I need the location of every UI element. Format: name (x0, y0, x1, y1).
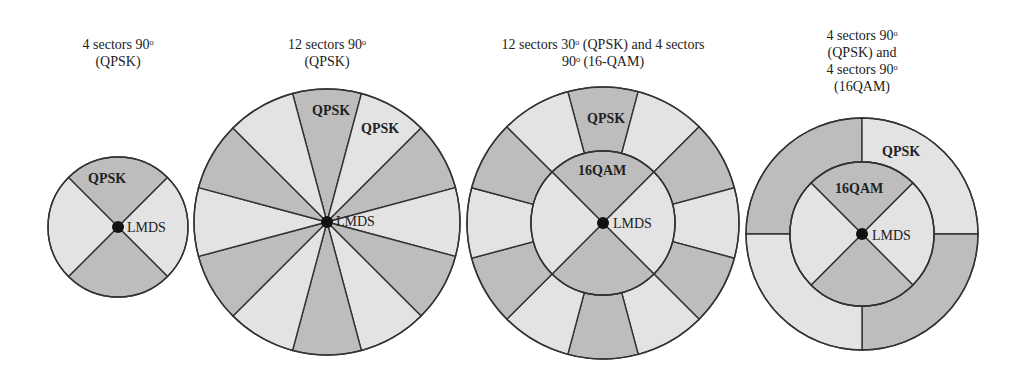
diagram-2-lmds-label: LMDS (336, 214, 375, 229)
diagram-1-qpsk-label: QPSK (88, 171, 126, 186)
diagram-2-qpsk-label-2: QPSK (361, 121, 399, 136)
diagram-4-lmds-label: LMDS (872, 228, 911, 243)
base-station-icon (112, 221, 124, 233)
base-station-icon (321, 216, 333, 228)
diagram-3-qpsk-label: QPSK (587, 111, 625, 126)
diagram-3-lmds-label: LMDS (613, 216, 652, 231)
diagram-12-qpsk-4-16qam (467, 87, 739, 359)
diagram-12-sectors-qpsk (194, 89, 460, 355)
sector-diagrams: QPSKLMDSQPSKQPSKLMDSQPSK16QAMLMDSQPSK16Q… (0, 0, 1018, 372)
base-station-icon (856, 228, 868, 240)
diagram-4-qpsk-label: QPSK (882, 144, 920, 159)
base-station-icon (597, 217, 609, 229)
diagram-1-lmds-label: LMDS (127, 220, 166, 235)
diagram-3-16qam-label: 16QAM (578, 163, 626, 178)
diagram-4-16qam-label: 16QAM (835, 181, 883, 196)
diagram-2-qpsk-label: QPSK (312, 103, 350, 118)
diagram-4-qpsk-4-16qam (746, 118, 978, 350)
